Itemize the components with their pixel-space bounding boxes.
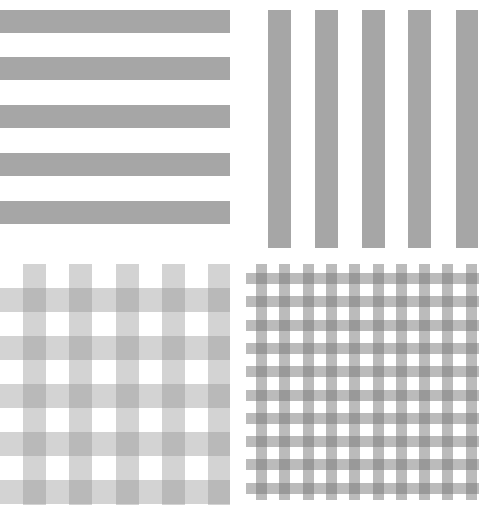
vertical-stripe: [315, 10, 338, 248]
vertical-stripe: [408, 10, 431, 248]
horizontal-stripe: [0, 10, 230, 33]
horizontal-stripes-panel: [0, 0, 232, 250]
vertical-stripe: [268, 10, 291, 248]
vertical-stripes-panel: [245, 0, 487, 252]
gingham-horizontal-band: [0, 336, 230, 360]
horizontal-stripe: [0, 57, 230, 80]
fine-gingham-horizontal-band: [246, 483, 479, 494]
vertical-stripe: [362, 10, 385, 248]
gingham-horizontal-band: [0, 384, 230, 408]
horizontal-stripe: [0, 153, 230, 176]
vertical-stripe: [456, 10, 478, 248]
gingham-horizontal-band: [0, 288, 230, 312]
fine-gingham-horizontal-band: [246, 459, 479, 470]
coarse-gingham-panel: [0, 264, 230, 505]
gingham-horizontal-band: [0, 432, 230, 456]
fine-gingham-vertical-band: [466, 264, 477, 500]
horizontal-stripe: [0, 105, 230, 128]
horizontal-stripe: [0, 201, 230, 224]
gingham-horizontal-band: [0, 480, 230, 504]
fine-gingham-panel: [246, 264, 479, 500]
